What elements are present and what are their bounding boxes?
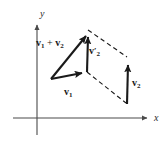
vector-diagram-figure: y x v1 + v2 v1 v′2 v2 [0, 0, 168, 150]
y-axis-label: y [40, 9, 44, 19]
dashed-construction-lines [87, 30, 127, 103]
vector-sum-label-sub2: 2 [60, 42, 64, 50]
vector-v2-prime-label: v′2 [89, 46, 100, 56]
dashed-v1tip-to-v2tail-line [87, 72, 126, 103]
diagram-canvas [0, 0, 168, 150]
vector-v2-prime-label-sub: 2 [97, 50, 101, 58]
vector-v1-label-sub: 1 [69, 91, 73, 99]
vector-sum-label: v1 + v2 [36, 38, 64, 48]
vector-v1-label: v1 [64, 87, 73, 97]
vector-sum-label-sub: 1 [41, 42, 45, 50]
vector-v2-label: v2 [132, 78, 141, 88]
vector-v2-label-sub: 2 [137, 82, 141, 90]
vector-sum-label-operator: + [45, 37, 56, 48]
x-axis-label: x [154, 113, 158, 123]
vector-v2-arrow [127, 65, 128, 104]
vector-v2-prime-arrow [87, 37, 88, 72]
